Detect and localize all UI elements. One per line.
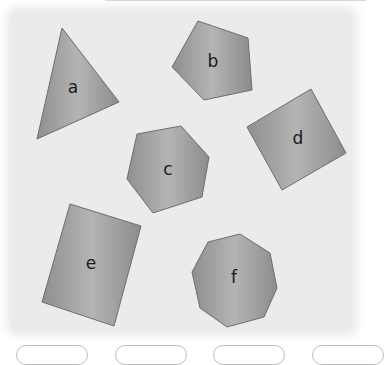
shape-f-octagon: f (192, 234, 277, 327)
shape-label-d: d (293, 128, 304, 148)
shape-label-f: f (231, 267, 238, 287)
shape-a-triangle: a (37, 28, 119, 139)
answer-box-2[interactable] (115, 345, 187, 365)
shape-c-hexagon: c (127, 126, 209, 213)
shape-d-square: d (247, 89, 346, 190)
shape-label-a: a (68, 77, 78, 97)
shape-label-e: e (86, 253, 96, 273)
answer-box-1[interactable] (16, 345, 88, 365)
shape-label-b: b (208, 51, 219, 71)
answer-box-4[interactable] (312, 345, 384, 365)
answer-box-3[interactable] (213, 345, 285, 365)
shape-e-rectangle: e (42, 204, 141, 326)
shape-b-pentagon: b (172, 21, 252, 100)
shape-label-c: c (163, 159, 172, 179)
